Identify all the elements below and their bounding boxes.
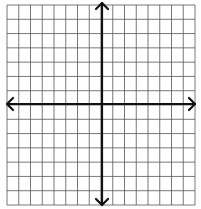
- coordinate-plane: [0, 0, 201, 209]
